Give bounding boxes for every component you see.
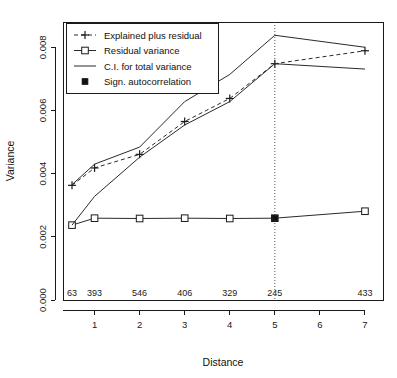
x-tick-label: 6 <box>317 319 322 330</box>
legend: Explained plus residualResidual variance… <box>66 23 218 93</box>
marker-square-open <box>181 215 188 222</box>
y-tick-label: 0.002 <box>37 225 48 249</box>
square-filled-icon <box>82 79 88 85</box>
y-axis-title: Variance <box>4 141 16 182</box>
y-tick-label: 0.006 <box>37 99 48 123</box>
legend-label: Sign. autocorrelation <box>104 76 191 87</box>
marker-square-open <box>226 215 233 222</box>
marker-plus <box>181 118 189 126</box>
y-axis: 0.0000.0020.0040.0060.008 <box>37 35 55 312</box>
series-5 <box>272 216 277 221</box>
marker-square-open <box>136 215 143 222</box>
marker-square-open <box>362 208 369 215</box>
x-tick-label: 7 <box>362 319 367 330</box>
marker-plus <box>91 164 99 172</box>
count-label: 329 <box>222 288 237 298</box>
variance-distance-chart: 0.0000.0020.0040.0060.008123456763393546… <box>0 0 397 378</box>
x-axis-title: Distance <box>203 356 244 368</box>
count-label: 406 <box>177 288 192 298</box>
legend-label: C.I. for total variance <box>104 61 192 72</box>
y-tick-label: 0.008 <box>37 35 48 59</box>
count-label: 393 <box>87 288 102 298</box>
legend-label: Residual variance <box>104 45 180 56</box>
marker-plus <box>361 47 369 55</box>
y-tick-label: 0.000 <box>37 288 48 312</box>
count-label: 433 <box>357 288 372 298</box>
legend-label: Explained plus residual <box>104 30 202 41</box>
marker-square-open <box>91 215 98 222</box>
x-axis: 1234567 <box>63 310 368 330</box>
count-label: 546 <box>132 288 147 298</box>
series-2 <box>69 208 369 229</box>
x-tick-label: 3 <box>182 319 187 330</box>
x-tick-label: 4 <box>227 319 232 330</box>
count-labels: 63393546406329245433 <box>67 288 372 298</box>
series-path <box>72 211 365 225</box>
chart-figure: 0.0000.0020.0040.0060.008123456763393546… <box>0 0 397 378</box>
x-tick-label: 5 <box>272 319 277 330</box>
y-tick-label: 0.004 <box>37 162 48 186</box>
count-label: 63 <box>67 288 77 298</box>
x-tick-label: 2 <box>137 319 142 330</box>
x-tick-label: 1 <box>92 319 97 330</box>
square-open-icon <box>82 47 89 54</box>
marker-square-filled <box>272 216 277 221</box>
